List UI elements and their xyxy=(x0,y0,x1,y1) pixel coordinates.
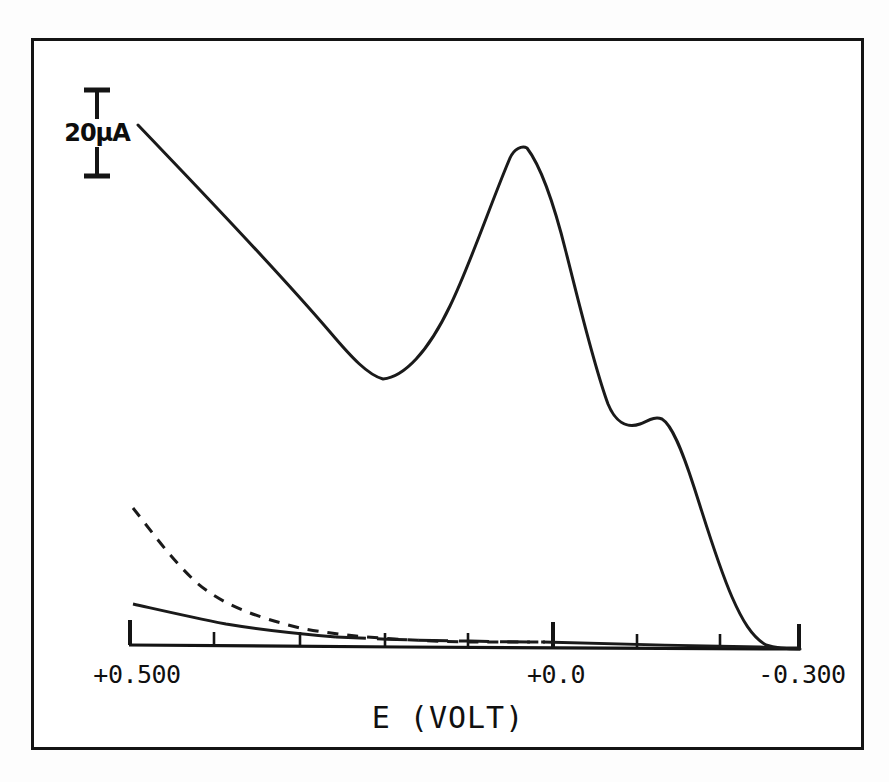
scale-bar-label: 20μA xyxy=(63,119,131,147)
axis-tick-label-right: -0.300 xyxy=(758,660,845,689)
axis-tick-label-center: +0.0 xyxy=(527,660,585,689)
figure-border-frame xyxy=(31,38,864,750)
axis-title-potential: E (VOLT) xyxy=(372,700,525,735)
figure-root: 20μA +0.500 +0.0 -0.300 E (VOLT) xyxy=(0,0,889,782)
axis-tick-label-left: +0.500 xyxy=(93,660,180,689)
figure-caption-clipped xyxy=(55,770,855,782)
